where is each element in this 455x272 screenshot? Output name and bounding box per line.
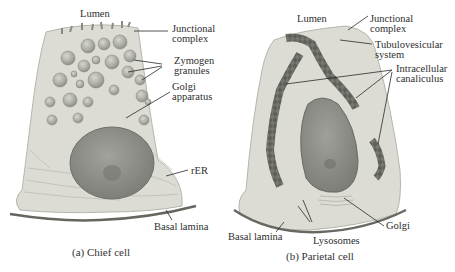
caption-parietal-cell: (b) Parietal cell <box>286 250 354 262</box>
label-lysosomes: Lysosomes <box>313 236 360 246</box>
label-basal-lamina-a: Basal lamina <box>154 222 209 232</box>
gastric-cells-figure: Lumen Junctional complex Zymogen granule… <box>0 0 455 272</box>
nucleolus <box>103 165 121 181</box>
label-rer: rER <box>191 166 208 176</box>
label-golgi-apparatus-line2: apparatus <box>172 92 212 102</box>
label-junctional-complex-a-line2: complex <box>172 34 208 44</box>
label-golgi-b: Golgi <box>386 221 410 231</box>
label-tubulovesicular-line2: system <box>375 50 404 60</box>
label-canaliculus-line2: canaliculus <box>396 74 443 84</box>
parietal-nucleolus <box>324 159 336 169</box>
chief-cell <box>10 21 196 220</box>
label-lumen-b: Lumen <box>297 14 327 24</box>
chief-nucleus <box>70 127 154 199</box>
label-zymogen-line2: granules <box>174 66 210 76</box>
label-junctional-complex-b-line2: complex <box>370 24 406 34</box>
label-basal-lamina-b: Basal lamina <box>228 232 283 242</box>
caption-chief-cell: (a) Chief cell <box>72 246 130 258</box>
label-lumen-a: Lumen <box>80 9 110 19</box>
